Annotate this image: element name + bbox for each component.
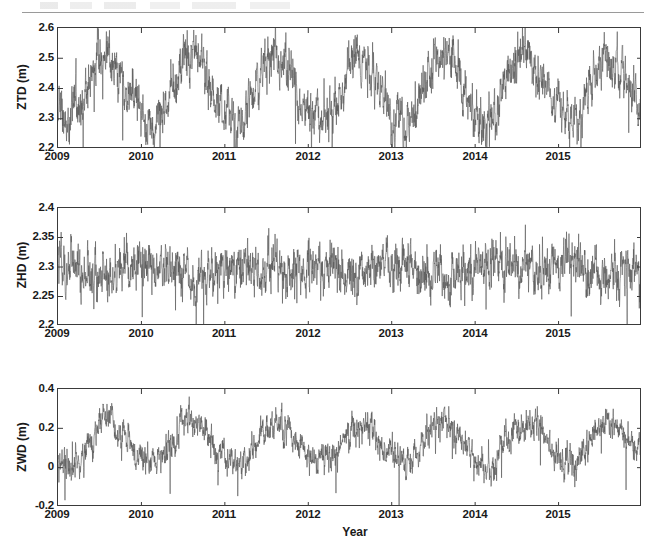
ztd-xtick-2015: 2015: [534, 150, 582, 162]
ztd-xtick-2009: 2009: [33, 150, 81, 162]
zhd-xtick-2013: 2013: [367, 327, 415, 339]
zhd-ytick-2-4: 2.4: [14, 201, 54, 213]
zhd-xtick-2012: 2012: [284, 327, 332, 339]
ztd-xtick-2014: 2014: [451, 150, 499, 162]
page-header-ghost-text: [40, 2, 340, 9]
zhd-ytick-2-35: 2.35: [9, 230, 54, 242]
ztd-plot-area: [57, 27, 641, 148]
zwd-xtick-2014: 2014: [451, 508, 499, 520]
x-axis-label: Year: [330, 525, 380, 539]
zhd-xtick-2014: 2014: [451, 327, 499, 339]
ztd-ytick-2-6: 2.6: [14, 21, 54, 33]
ztd-xtick-2010: 2010: [117, 150, 165, 162]
zhd-ytick-2-3: 2.3: [14, 260, 54, 272]
zwd-xtick-2009: 2009: [33, 508, 81, 520]
zhd-xtick-2009: 2009: [33, 327, 81, 339]
zwd-ytick-0-4: 0.4: [14, 382, 54, 394]
ztd-ytick-2-3: 2.3: [14, 111, 54, 123]
ztd-ytick-2-4: 2.4: [14, 81, 54, 93]
zwd-plot-area: [57, 388, 641, 506]
zwd-ytick-0-2: 0.2: [14, 421, 54, 433]
page-header-rule: [22, 12, 644, 13]
zwd-ytick-0: 0: [14, 460, 54, 472]
zhd-xtick-2010: 2010: [117, 327, 165, 339]
zwd-xtick-2011: 2011: [200, 508, 248, 520]
zhd-xtick-2011: 2011: [200, 327, 248, 339]
zwd-xtick-2010: 2010: [117, 508, 165, 520]
ztd-xtick-2013: 2013: [367, 150, 415, 162]
zwd-xtick-2015: 2015: [534, 508, 582, 520]
zwd-y-axis-label: ZWD (m): [15, 407, 29, 487]
zhd-plot-area: [57, 207, 641, 325]
ztd-xtick-2012: 2012: [284, 150, 332, 162]
ztd-ytick-2-5: 2.5: [14, 51, 54, 63]
ztd-xtick-2011: 2011: [200, 150, 248, 162]
zhd-ytick-2-25: 2.25: [9, 289, 54, 301]
zwd-xtick-2013: 2013: [367, 508, 415, 520]
zwd-xtick-2012: 2012: [284, 508, 332, 520]
figure-three-panel-delay-timeseries: ZTD (m) 2.6 2.5 2.4 2.3 2.2 2009 2010 20…: [0, 0, 666, 551]
zhd-xtick-2015: 2015: [534, 327, 582, 339]
